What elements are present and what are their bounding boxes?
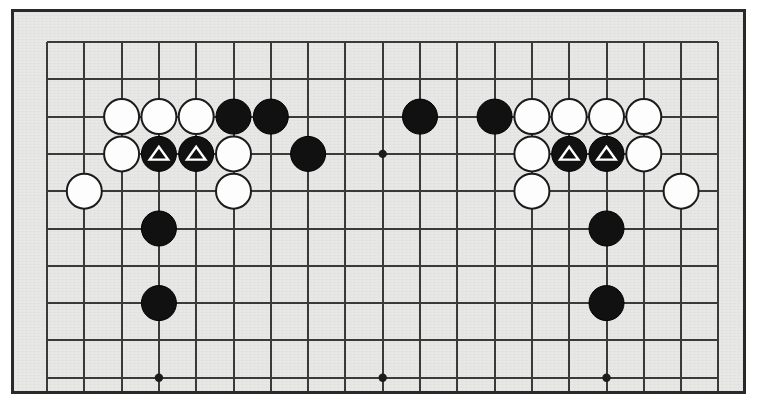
go-board[interactable] [14,12,743,391]
white-stone[interactable] [104,99,139,134]
star-point [379,374,387,382]
white-stone[interactable] [626,99,661,134]
white-stone[interactable] [67,174,102,209]
white-stone[interactable] [141,99,176,134]
black-stone[interactable] [141,136,176,171]
black-stone[interactable] [403,99,438,134]
star-point [602,374,610,382]
white-stone[interactable] [589,99,624,134]
white-stone[interactable] [514,99,549,134]
white-stone[interactable] [664,174,699,209]
white-stone[interactable] [552,99,587,134]
white-stone[interactable] [514,174,549,209]
black-stone[interactable] [179,136,214,171]
white-stone[interactable] [216,174,251,209]
white-stone[interactable] [216,136,251,171]
go-diagram-frame [11,9,746,394]
black-stone[interactable] [589,211,624,246]
black-stone[interactable] [589,286,624,321]
diagram-page [0,0,761,407]
star-point [155,374,163,382]
white-stone[interactable] [179,99,214,134]
white-stone[interactable] [626,136,661,171]
black-stone[interactable] [141,211,176,246]
black-stone[interactable] [291,136,326,171]
black-stone[interactable] [141,286,176,321]
white-stone[interactable] [514,136,549,171]
black-stone[interactable] [552,136,587,171]
white-stone[interactable] [104,136,139,171]
black-stone[interactable] [216,99,251,134]
star-point [379,150,387,158]
black-stone[interactable] [253,99,288,134]
black-stone[interactable] [589,136,624,171]
black-stone[interactable] [477,99,512,134]
